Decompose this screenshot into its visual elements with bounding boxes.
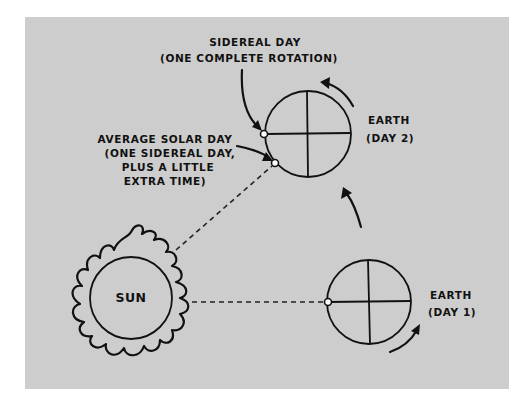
earth-day2-label-line2: (DAY 2): [366, 132, 414, 144]
sun: SUN: [73, 225, 189, 355]
arrowhead-icon: [320, 77, 330, 89]
earth-day2-rotation-arrow: [326, 83, 353, 106]
sun-label: SUN: [115, 290, 146, 305]
solar-day-callout: AVERAGE SOLAR DAY (ONE SIDEREAL DAY, PLU…: [97, 133, 273, 187]
earth-day1-label-line2: (DAY 1): [428, 306, 476, 318]
sidereal-label-line2: (ONE COMPLETE ROTATION): [160, 52, 338, 64]
sidereal-day-callout: SIDEREAL DAY (ONE COMPLETE ROTATION): [160, 36, 338, 131]
solar-pointer-arrow: [237, 146, 268, 157]
earth-day1-marker-dot: [325, 299, 332, 306]
orbit-arrow-shaft: [347, 194, 361, 227]
sidereal-solar-day-diagram: SUN EARTH (DAY 1) EARTH (DAY 2) SIDEREAL…: [0, 0, 514, 404]
earth-day1: EARTH (DAY 1): [325, 260, 477, 352]
earth-day2: EARTH (DAY 2): [261, 77, 415, 177]
solar-label-line4: EXTRA TIME): [124, 175, 206, 187]
sidereal-label-line1: SIDEREAL DAY: [209, 36, 301, 48]
sidereal-pointer-arrow: [242, 70, 258, 127]
orbit-arrow: [341, 187, 361, 227]
solar-label-line3: PLUS A LITTLE: [122, 161, 214, 173]
earth-day2-label-line1: EARTH: [368, 114, 410, 126]
sidereal-marker-dot: [261, 131, 268, 138]
earth-day1-meridian: [368, 260, 370, 344]
solar-label-line1: AVERAGE SOLAR DAY: [97, 133, 232, 145]
solar-label-line2: (ONE SIDEREAL DAY,: [105, 147, 236, 159]
earth-day1-rotation-arrow: [390, 330, 417, 352]
earth-day2-meridian: [307, 91, 308, 177]
earth-day1-label-line1: EARTH: [430, 289, 472, 301]
